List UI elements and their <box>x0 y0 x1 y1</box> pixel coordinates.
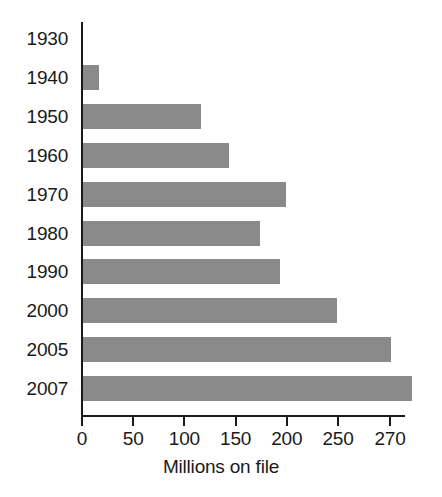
bar-1950 <box>83 104 201 129</box>
x-tick-mark-270 <box>389 417 391 426</box>
bar-rect <box>83 221 260 246</box>
bar-chart-figure: 1930194019501960197019801990200020052007… <box>0 0 442 497</box>
bar-1990 <box>83 259 280 284</box>
category-axis-labels: 1930194019501960197019801990200020052007 <box>0 0 76 497</box>
bar-rect <box>83 104 201 129</box>
bar-rect <box>83 298 337 323</box>
x-tick-label-50: 50 <box>123 429 144 449</box>
x-tick-mark-0 <box>81 417 83 426</box>
category-label-1990: 1990 <box>0 262 68 281</box>
bar-1960 <box>83 143 229 168</box>
bar-1940 <box>83 65 99 90</box>
category-label-1960: 1960 <box>0 146 68 165</box>
x-tick-mark-100 <box>183 417 185 426</box>
x-tick-label-0: 0 <box>77 429 87 449</box>
bar-rect <box>83 376 412 401</box>
bar-2000 <box>83 298 337 323</box>
x-tick-label-150: 150 <box>220 429 251 449</box>
category-label-2000: 2000 <box>0 301 68 320</box>
category-label-1970: 1970 <box>0 185 68 204</box>
x-tick-mark-200 <box>286 417 288 426</box>
x-tick-mark-150 <box>235 417 237 426</box>
x-tick-mark-50 <box>132 417 134 426</box>
x-tick-label-100: 100 <box>169 429 200 449</box>
plot-area: 1930194019501960197019801990200020052007… <box>0 0 442 497</box>
bar-2007 <box>83 376 412 401</box>
category-label-1950: 1950 <box>0 107 68 126</box>
x-axis-title: Millions on file <box>0 456 442 477</box>
bar-rect <box>83 259 280 284</box>
bar-1980 <box>83 221 260 246</box>
bar-1970 <box>83 182 286 207</box>
x-tick-mark-250 <box>337 417 339 426</box>
category-label-1940: 1940 <box>0 68 68 87</box>
x-tick-label-200: 200 <box>271 429 302 449</box>
category-label-2005: 2005 <box>0 340 68 359</box>
x-tick-label-250: 250 <box>322 429 353 449</box>
bar-rect <box>83 65 99 90</box>
bar-2005 <box>83 337 391 362</box>
bar-rect <box>83 182 286 207</box>
category-label-2007: 2007 <box>0 379 68 398</box>
bar-rect <box>83 143 229 168</box>
bar-rect <box>83 337 391 362</box>
x-tick-label-270: 270 <box>374 429 405 449</box>
category-label-1930: 1930 <box>0 29 68 48</box>
category-label-1980: 1980 <box>0 224 68 243</box>
